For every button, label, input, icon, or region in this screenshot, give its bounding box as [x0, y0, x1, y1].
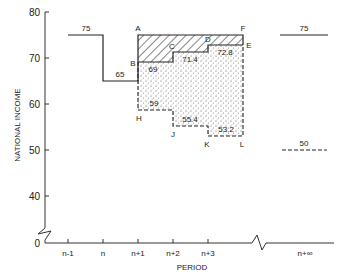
value-75-pre: 75 [82, 24, 91, 33]
point-C: C [169, 42, 175, 51]
value-53-2: 53.2 [218, 125, 234, 134]
x-tick-n-1: n-1 [62, 249, 74, 258]
x-axis [45, 235, 334, 250]
x-tick-n+2: n+2 [166, 249, 180, 258]
x-tick-n: n [101, 249, 105, 258]
x-tick-n+3: n+3 [201, 249, 215, 258]
y-tick-70: 70 [29, 53, 41, 64]
value-69: 69 [149, 65, 158, 74]
point-E: E [246, 41, 251, 50]
y-tick-80: 80 [29, 7, 41, 18]
point-L: L [240, 140, 245, 149]
y-tick-50: 50 [29, 145, 41, 156]
point-J: J [171, 130, 175, 139]
value-71-4: 71.4 [182, 55, 198, 64]
point-B: B [130, 59, 135, 68]
value-59: 59 [150, 99, 159, 108]
y-tick-40: 40 [29, 191, 41, 202]
point-K: K [204, 140, 210, 149]
y-axis-label: NATIONAL INCOME [13, 88, 22, 161]
value-55-4: 55.4 [182, 115, 198, 124]
value-65: 65 [116, 70, 125, 79]
point-H: H [136, 114, 142, 123]
x-axis-label: PERIOD [177, 263, 208, 272]
value-72-8: 72.8 [217, 48, 233, 57]
y-tick-60: 60 [29, 99, 41, 110]
point-A: A [135, 24, 141, 33]
national-income-chart: 80 70 60 50 40 0 NATIONAL INCOME n-1 n n… [0, 0, 342, 277]
y-tick-0: 0 [34, 238, 40, 249]
x-tick-n+1: n+1 [131, 249, 145, 258]
value-50-inf: 50 [300, 139, 309, 148]
value-75-inf: 75 [300, 24, 309, 33]
x-tick-n+inf: n+∞ [298, 249, 313, 258]
y-axis [38, 12, 51, 243]
point-F: F [241, 24, 246, 33]
point-D: D [205, 35, 211, 44]
